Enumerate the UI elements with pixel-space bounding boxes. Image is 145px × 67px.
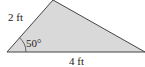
- left-side-label: 2 ft: [8, 11, 23, 23]
- base-label: 4 ft: [69, 55, 84, 67]
- angle-label: 50°: [26, 37, 41, 49]
- triangle-diagram: 2 ft 50° 4 ft: [0, 0, 145, 67]
